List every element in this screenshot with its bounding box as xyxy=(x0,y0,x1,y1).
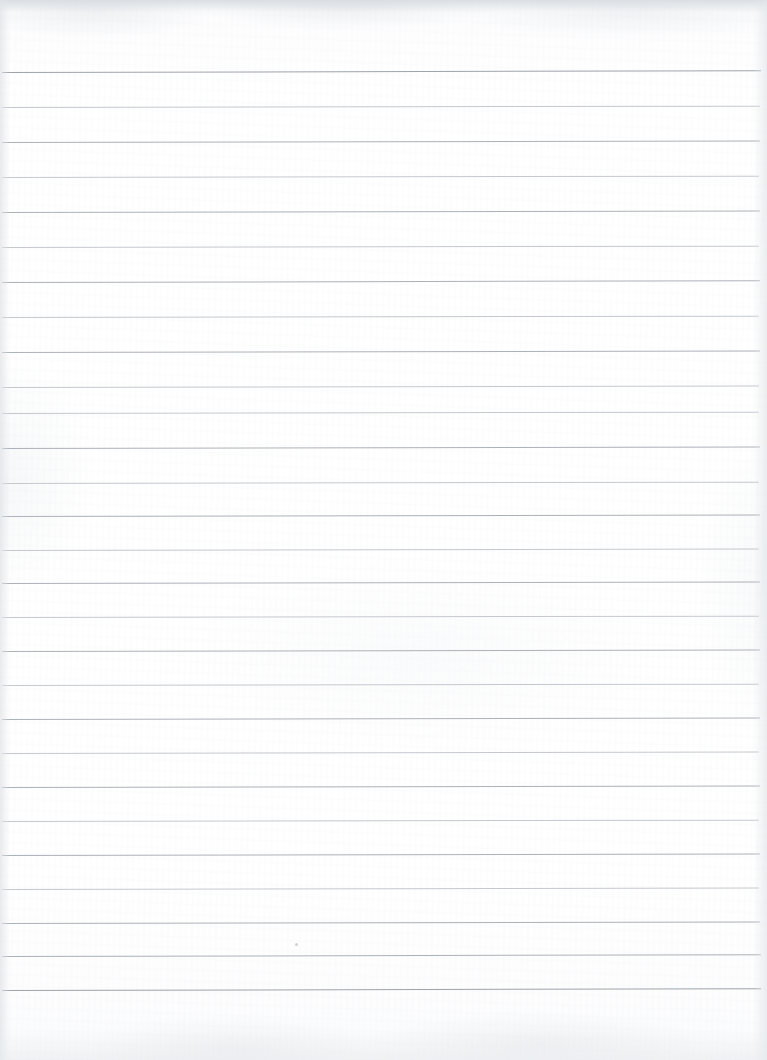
ruled-line xyxy=(2,684,759,686)
ruled-line xyxy=(2,210,760,213)
ruled-line xyxy=(2,140,760,143)
ruled-line xyxy=(2,316,759,318)
ruled-line xyxy=(2,752,759,754)
ruled-line xyxy=(2,106,760,108)
ruled-line xyxy=(2,649,760,652)
ruled-line xyxy=(2,446,760,449)
ruled-line xyxy=(2,514,760,517)
ruled-line xyxy=(2,616,759,618)
ruled-line xyxy=(2,853,760,856)
scanned-page xyxy=(0,0,767,1060)
ruled-line xyxy=(2,954,761,957)
ruled-line xyxy=(2,785,760,788)
ruled-line xyxy=(2,482,759,484)
ruled-line xyxy=(2,70,761,73)
ruled-line xyxy=(2,717,760,720)
ruled-line xyxy=(2,581,760,584)
ruled-line xyxy=(2,888,759,890)
ruled-lines-layer xyxy=(0,0,767,1060)
ruled-line xyxy=(2,280,760,283)
ruled-line xyxy=(2,820,759,822)
ruled-line xyxy=(2,386,759,388)
ruled-line xyxy=(2,921,760,924)
ruled-line xyxy=(2,176,759,178)
ruled-line xyxy=(2,246,759,248)
ruled-line xyxy=(2,549,759,551)
ruled-line xyxy=(2,988,761,991)
ruled-line xyxy=(2,412,759,414)
ruled-line xyxy=(2,350,760,353)
